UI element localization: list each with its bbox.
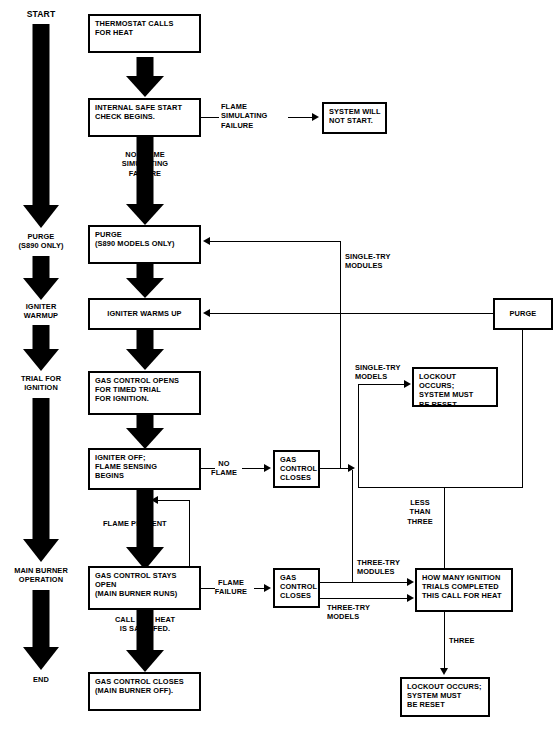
arrow-gas-opens-to-igniter-off [126,415,164,449]
box-lockout-occurs-lower[interactable]: LOCKOUT OCCURS; SYSTEM MUST BE RESET [400,677,490,717]
arrow-igniter-off-to-gas-stays-open [126,490,164,570]
flowchart-canvas: START PURGE (S890 ONLY) IGNITER WARMUP T… [0,0,560,738]
edge-single-try-modules-to-purge [210,241,341,242]
arrowhead-into-how-many-lower [407,594,414,602]
edge-single-try-models-to-lockout [358,384,407,385]
box-gas-control-opens-timed-trial[interactable]: GAS CONTROL OPENS FOR TIMED TRIAL FOR IG… [88,371,201,415]
box-gas-control-closes-main-burner-off[interactable]: GAS CONTROL CLOSES (MAIN BURNER OFF). [88,672,201,711]
edge-single-try-modules-vertical [340,241,341,469]
edge-label-flame-simulating-failure: FLAME SIMULATING FAILURE [221,102,285,130]
edge-no-flame-to-gas-closes-1 [242,468,266,469]
edge-label-single-try-modules-top: SINGLE-TRY MODULES [345,252,415,271]
edge-purge-right-down [522,330,523,488]
box-internal-safe-start-check[interactable]: INTERNAL SAFE START CHECK BEGINS. [88,98,201,137]
arrow-purge-to-igniter-warms-up [126,264,164,298]
arrowhead-to-gas-control-closes-upper [264,464,271,472]
edge-three-try-models-to-how-many [320,598,410,599]
edge-label-flame-present: FLAME PRESENT [103,519,183,528]
box-thermostat-calls-for-heat[interactable]: THERMOSTAT CALLS FOR HEAT [88,14,201,53]
edge-purge-right-to-igniter-warms-up [210,313,493,314]
edge-three-vertical [444,612,445,671]
arrowhead-into-igniter-warms-up [203,309,210,317]
arrowhead-flame-present-feedback [151,496,158,504]
box-igniter-warms-up[interactable]: IGNITER WARMS UP [88,298,201,330]
edge-label-call-for-heat-satisfied: CALL FOR HEAT IS SATISIFED. [100,615,190,634]
arrowhead-into-purge-s890 [203,237,210,245]
edge-purge-right-loop-up [358,470,359,488]
box-system-will-not-start[interactable]: SYSTEM WILL NOT START. [322,102,387,134]
edge-less-than-three-top [444,487,523,488]
arrowhead-into-lockout-lower [440,668,448,675]
box-how-many-ignition-trials[interactable]: HOW MANY IGNITION TRIALS COMPLETED THIS … [415,568,513,612]
stage-arrow-trial-to-main-burner [23,398,59,562]
stage-label-main-burner-operation: MAIN BURNER OPERATION [0,566,82,585]
box-gas-control-closes-upper[interactable]: GAS CONTROL CLOSES [273,450,320,488]
stage-label-igniter-warmup: IGNITER WARMUP [3,302,79,321]
edge-label-less-than-three: LESS THAN THREE [400,498,440,526]
arrowhead-to-gas-control-closes-lower [264,584,271,592]
edge-three-try-modules-vertical [352,470,353,582]
edge-gas-closes-upper-to-junction [320,468,351,469]
arrow-safe-start-to-purge [126,137,164,225]
stage-label-start: START [8,9,74,20]
stage-label-purge: PURGE (S890 ONLY) [3,232,79,251]
arrowhead-to-system-will-not-start [312,113,319,121]
box-purge-right[interactable]: PURGE [493,298,553,330]
edge-label-three-try-modules: THREE-TRY MODULES [357,558,419,577]
box-gas-control-closes-lower[interactable]: GAS CONTROL CLOSES [273,568,320,608]
box-igniter-off-flame-sensing[interactable]: IGNITER OFF; FLAME SENSING BEGINS [88,448,201,490]
edge-single-try-models-vertical [358,384,359,470]
edge-label-flame-failure: FLAME FAILURE [207,578,255,597]
edge-label-three: THREE [449,636,489,645]
box-lockout-occurs-upper[interactable]: LOCKOUT OCCURS; SYSTEM MUST BE RESET [412,367,498,407]
arrowhead-into-how-many-upper [407,578,414,586]
stage-arrow-purge-to-igniter [23,256,59,300]
box-gas-control-stays-open[interactable]: GAS CONTROL STAYS OPEN (MAIN BURNER RUNS… [88,566,201,610]
edge-less-than-three-vertical [444,487,445,568]
stage-label-end: END [3,675,79,684]
box-purge-s890-models-only[interactable]: PURGE (S890 MODELS ONLY) [88,225,201,264]
edge-flame-present-horizontal [158,500,190,501]
arrow-igniter-to-gas-control-opens [126,330,164,370]
edge-flame-sim-to-no-start [288,117,314,118]
edge-label-single-try-models: SINGLE-TRY MODELS [355,363,417,382]
edge-label-no-flame: NO FLAME [207,459,241,478]
edge-safe-start-to-flame-sim [201,117,219,118]
stage-arrow-igniter-to-trial [23,325,59,371]
stage-label-trial-for-ignition: TRIAL FOR IGNITION [3,374,79,393]
stage-arrow-main-burner-to-end [23,590,59,670]
stage-arrow-start-to-purge [23,24,59,228]
edge-gas-closes-lower-to-three-try-modules [320,582,353,583]
edge-three-try-modules-to-how-many [352,582,410,583]
arrow-thermostat-to-safe-start [126,57,164,97]
edge-label-three-try-models: THREE-TRY MODELS [327,603,389,622]
edge-flame-present-vertical [189,500,190,567]
